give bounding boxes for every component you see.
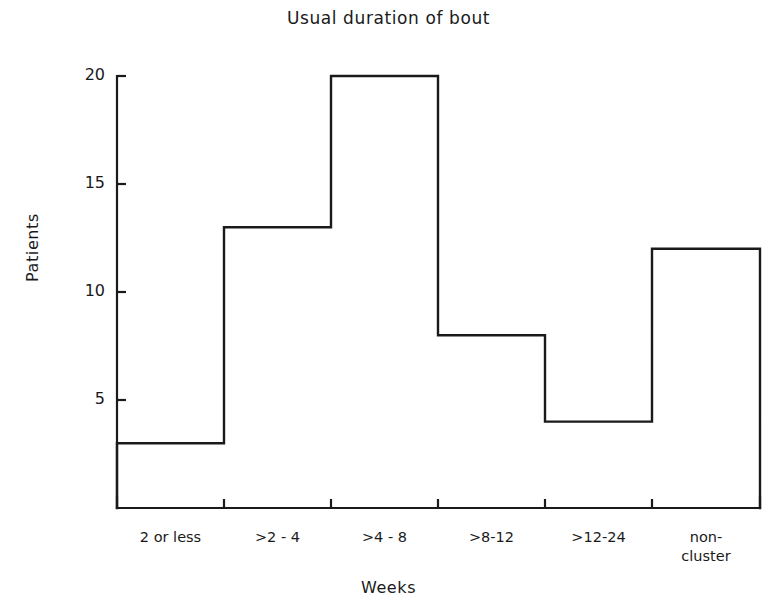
x-axis-tick-label-2: >4 - 8 xyxy=(325,528,445,547)
y-axis-ticks xyxy=(117,76,126,400)
x-axis-tick-label-3: >8-12 xyxy=(432,528,552,547)
x-axis-tick-label-0: 2 or less xyxy=(111,528,231,547)
x-axis-title: Weeks xyxy=(0,578,777,597)
y-axis-tick-label-5: 5 xyxy=(45,389,105,408)
x-axis-ticks xyxy=(117,496,760,508)
y-axis-tick-label-15: 15 xyxy=(45,173,105,192)
x-axis-tick-label-1: >2 - 4 xyxy=(218,528,338,547)
y-axis-tick-label-10: 10 xyxy=(45,281,105,300)
x-axis-tick-label-4: >12-24 xyxy=(539,528,659,547)
chart-figure: Usual duration of bout 5101520 2 or less… xyxy=(0,0,777,616)
x-axis-tick-label-5: non- cluster xyxy=(646,528,766,566)
histogram-step-outline xyxy=(117,76,760,508)
y-axis-tick-label-20: 20 xyxy=(45,65,105,84)
chart-plot-area xyxy=(0,0,777,616)
y-axis-title: Patients xyxy=(23,178,42,318)
